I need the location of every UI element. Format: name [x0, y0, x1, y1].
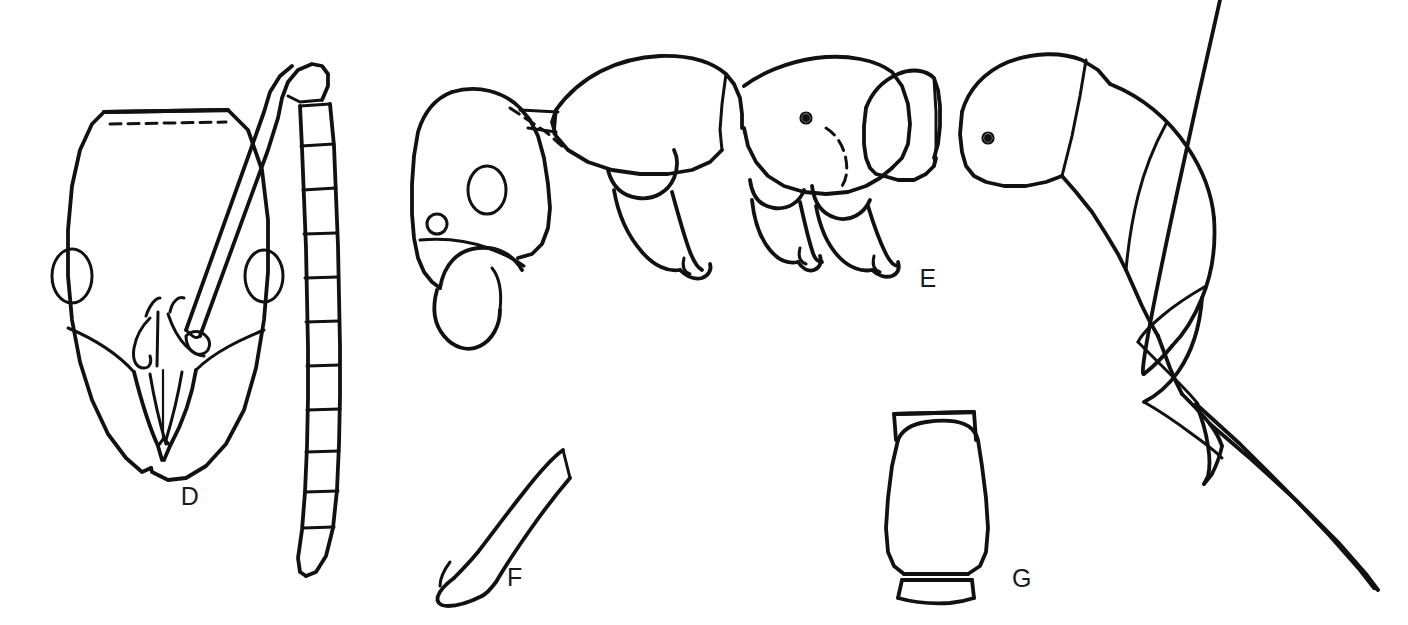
- propodeum-outline: [744, 57, 910, 168]
- clypeus-median-carina: [157, 312, 158, 366]
- petiole-posterior-joint: [934, 78, 936, 166]
- cervix-neck-ventral: [528, 128, 556, 132]
- funiculus-inner-margin: [298, 106, 308, 576]
- head-lateral-outline-ventral: [412, 92, 452, 288]
- funiculus-segment-divider: [301, 144, 334, 146]
- figure-label-d: D: [181, 482, 200, 510]
- hindleg-femur: [816, 206, 872, 271]
- midleg-claw: [799, 248, 806, 264]
- blade-ventral-margin: [482, 478, 570, 596]
- petiole-spiracle: [984, 134, 992, 142]
- petiole-collar-top: [894, 412, 974, 414]
- head-capsule-outline-left: [68, 112, 151, 472]
- gaster-tergite-3: [1172, 218, 1215, 346]
- mandible-apex: [492, 268, 501, 310]
- petiole-basal-band-right: [972, 580, 974, 598]
- clypeus-left-lobe: [133, 318, 150, 368]
- propodeal-declivity-dashed: [826, 128, 847, 186]
- hindleg-claw: [873, 256, 880, 272]
- gaster-tergite-2-ventral: [1062, 176, 1126, 270]
- occipital-margin: [104, 110, 228, 112]
- frontal-lobe-right: [170, 298, 184, 312]
- petiole-node-outline: [866, 71, 940, 158]
- antennal-scape-apex: [288, 96, 322, 102]
- propodeal-spiracle: [802, 114, 810, 122]
- funiculus-segment-divider: [305, 491, 338, 492]
- foreleg-femur: [614, 190, 680, 270]
- panel-g-petiole-dorsal: G: [886, 412, 1032, 603]
- funiculus-segment-divider: [307, 409, 340, 410]
- panel-f-blade-detail: F: [437, 450, 570, 606]
- left-compound-eye: [52, 249, 92, 303]
- petiole-basal-band-left: [898, 580, 902, 598]
- midleg-coxa: [750, 180, 804, 208]
- funiculus-segment-divider: [306, 451, 339, 452]
- right-compound-eye: [245, 250, 283, 302]
- mandible-lateral-inner: [434, 290, 500, 349]
- petiole-anterior-face: [864, 108, 884, 176]
- foreleg-femur-outer: [672, 192, 702, 270]
- blade-basal-shoulder: [437, 578, 482, 606]
- funiculus-segment-divider: [303, 527, 334, 528]
- occipital-dashed-line: [110, 122, 226, 124]
- funiculus-segment-divider: [307, 365, 340, 366]
- panel-e-body-lateral: E: [412, 0, 1378, 590]
- blade-apex: [563, 450, 570, 478]
- neck-joint-line: [554, 112, 556, 134]
- antennal-scape-inner: [186, 66, 292, 330]
- petiole-node-dorsal-outline: [898, 421, 988, 574]
- petiole-anterior-collar: [894, 412, 976, 440]
- compound-eye-lateral: [468, 166, 506, 214]
- figure-label-g: G: [1012, 564, 1032, 592]
- promesonotal-suture: [720, 74, 726, 150]
- foreleg-claw: [683, 258, 690, 274]
- petiole-node-dorsal-outline-left: [886, 440, 904, 574]
- funiculus-base-joint: [300, 104, 330, 106]
- clypeal-margin-lateral: [420, 239, 524, 266]
- panel-d-head-full-face: D: [52, 64, 340, 576]
- propodeum-ventral-outline: [744, 128, 892, 194]
- gaster-tergite-1-ventral: [960, 112, 1062, 186]
- funiculus-segment-divider: [306, 321, 339, 322]
- gaster-segment-line-2: [1126, 124, 1166, 270]
- figure-label-e: E: [919, 264, 936, 292]
- sting-apex: [1374, 588, 1378, 590]
- gaster-tergite-1: [962, 54, 1110, 112]
- funiculus-segment-divider: [304, 233, 337, 234]
- funiculus-outer-margin: [306, 104, 340, 576]
- gaster-segment-line-1: [1062, 60, 1086, 176]
- figure-label-f: F: [507, 563, 523, 591]
- antennal-socket-lateral: [427, 214, 447, 234]
- petiole-basal-band-bottom: [898, 598, 974, 603]
- sting-lower-margin: [1210, 424, 1378, 590]
- illustration-plate: D: [0, 0, 1408, 625]
- plate-artwork: D: [0, 0, 1408, 625]
- pronotum-outline: [556, 56, 742, 128]
- mandible-lateral-outer: [440, 248, 522, 288]
- pronotum-ventral-margin: [552, 110, 722, 174]
- funiculus-segment-divider: [303, 188, 336, 190]
- sting-upper-margin: [1196, 404, 1374, 588]
- cervix-neck: [520, 110, 558, 112]
- funiculus-segment-divider: [305, 277, 338, 278]
